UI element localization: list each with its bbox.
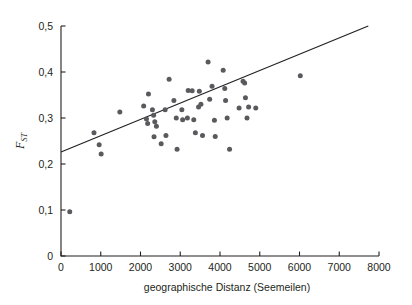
data-point	[141, 104, 146, 109]
data-point	[225, 116, 230, 121]
x-tick-label: 1000	[89, 261, 113, 273]
x-axis-title: geographische Distanz (Seemeilen)	[144, 281, 310, 293]
x-tick-label: 7000	[328, 261, 352, 273]
tick-marks	[61, 26, 379, 256]
x-tick-label: 4000	[208, 261, 232, 273]
data-point	[167, 77, 172, 82]
data-point	[193, 130, 198, 135]
data-point	[163, 107, 168, 112]
data-point	[185, 116, 190, 121]
data-points	[67, 59, 303, 214]
data-point	[180, 117, 185, 122]
data-point	[152, 134, 157, 139]
data-point	[151, 113, 156, 118]
data-point	[145, 121, 150, 126]
data-point	[253, 105, 258, 110]
data-point	[198, 102, 203, 107]
data-point	[221, 68, 226, 73]
data-point	[210, 84, 215, 89]
axes	[61, 26, 379, 256]
data-point	[222, 86, 227, 91]
data-point	[245, 116, 250, 121]
data-point	[99, 151, 104, 156]
data-point	[207, 97, 212, 102]
data-point	[171, 98, 176, 103]
data-point	[150, 107, 155, 112]
data-point	[97, 142, 102, 147]
data-point	[246, 104, 251, 109]
x-tick-label: 8000	[367, 261, 391, 273]
chart-figure: 010002000300040005000600070008000 00,10,…	[0, 0, 412, 305]
x-tick-label: 3000	[169, 261, 193, 273]
scatter-plot: 010002000300040005000600070008000 00,10,…	[0, 0, 412, 305]
x-tick-label: 0	[58, 261, 64, 273]
y-tick-label: 0,3	[38, 112, 53, 124]
y-tick-labels: 00,10,20,30,40,5	[38, 20, 53, 262]
data-point	[243, 95, 248, 100]
data-point	[163, 133, 168, 138]
data-point	[91, 130, 96, 135]
data-point	[242, 81, 247, 86]
x-axis-title-text: geographische Distanz (Seemeilen)	[144, 281, 310, 293]
data-point	[190, 88, 195, 93]
x-tick-labels: 010002000300040005000600070008000	[58, 261, 391, 273]
y-tick-label: 0,5	[38, 20, 53, 32]
trend-line	[61, 26, 368, 152]
y-tick-label: 0,4	[38, 66, 53, 78]
data-point	[213, 134, 218, 139]
data-point	[175, 147, 180, 152]
data-point	[298, 73, 303, 78]
x-tick-label: 5000	[248, 261, 272, 273]
data-point	[146, 92, 151, 97]
data-point	[227, 147, 232, 152]
data-point	[159, 141, 164, 146]
x-tick-label: 6000	[288, 261, 312, 273]
data-point	[152, 119, 157, 124]
data-point	[191, 117, 196, 122]
y-tick-label: 0	[47, 250, 53, 262]
y-tick-label: 0,2	[38, 158, 53, 170]
data-point	[154, 124, 159, 129]
data-point	[200, 133, 205, 138]
data-point	[67, 209, 72, 214]
data-point	[212, 118, 217, 123]
data-point	[223, 98, 228, 103]
y-tick-label: 0,1	[38, 204, 53, 216]
data-point	[197, 89, 202, 94]
data-point	[174, 116, 179, 121]
data-point	[237, 105, 242, 110]
data-point	[206, 59, 211, 64]
data-point	[179, 107, 184, 112]
y-axis-title-text: FST	[13, 133, 29, 150]
data-point	[144, 116, 149, 121]
y-axis-title: FST	[13, 133, 29, 150]
data-point	[117, 110, 122, 115]
x-tick-label: 2000	[129, 261, 153, 273]
